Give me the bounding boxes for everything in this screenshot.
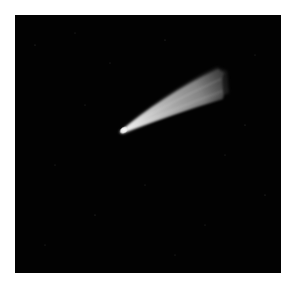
comet-illustration: [15, 15, 281, 273]
comet-photo: [15, 15, 281, 273]
stars: [34, 33, 265, 256]
